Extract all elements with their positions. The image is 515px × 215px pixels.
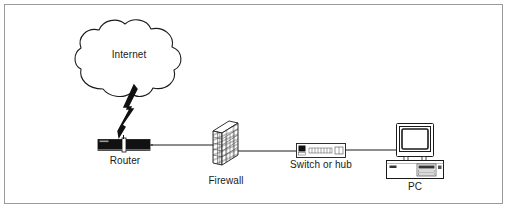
switch-icon bbox=[296, 143, 346, 158]
node-label-router: Router bbox=[45, 155, 205, 166]
link-internet-router bbox=[113, 85, 147, 141]
brick-wall-icon bbox=[209, 117, 243, 173]
diagram-frame: Internet Router bbox=[4, 4, 503, 204]
desktop-computer-icon bbox=[386, 123, 444, 185]
router-icon bbox=[97, 135, 153, 155]
node-switch: Switch or hub bbox=[296, 143, 346, 158]
node-firewall: Firewall bbox=[209, 117, 243, 173]
lightning-bolt-icon bbox=[113, 85, 147, 141]
node-label-switch: Switch or hub bbox=[241, 159, 401, 170]
node-label-internet: Internet bbox=[49, 49, 209, 60]
node-pc: PC bbox=[386, 123, 444, 185]
node-label-pc: PC bbox=[335, 181, 495, 192]
node-label-firewall: Firewall bbox=[146, 175, 306, 186]
node-router: Router bbox=[97, 135, 153, 155]
